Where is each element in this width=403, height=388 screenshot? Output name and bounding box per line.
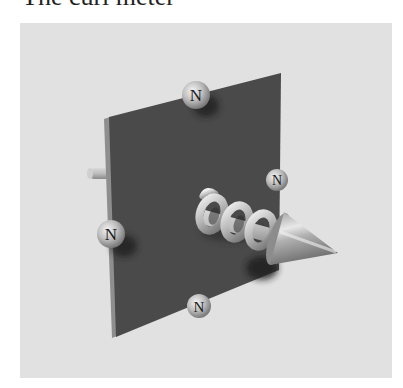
north-sphere-right: N	[266, 169, 288, 191]
svg-text:N: N	[105, 225, 117, 244]
north-sphere-left: N	[97, 220, 125, 248]
north-sphere-bottom: N	[187, 294, 211, 318]
north-sphere-top: N	[182, 81, 210, 109]
svg-text:N: N	[272, 173, 282, 188]
page-title: The curl meter	[22, 0, 175, 12]
curl-meter-illustration: N N N	[20, 23, 392, 378]
svg-text:N: N	[194, 299, 205, 315]
curl-meter-figure: N N N	[20, 23, 392, 378]
svg-text:N: N	[190, 86, 202, 105]
